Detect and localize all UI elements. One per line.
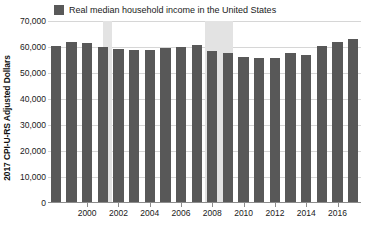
bar — [207, 51, 217, 203]
bar-slot — [158, 48, 174, 203]
y-axis-tick-label: 70,000 — [2, 16, 46, 26]
x-axis-tick-label: 2006 — [172, 208, 191, 218]
bar-slot — [48, 46, 64, 203]
x-axis-tick-mark — [118, 203, 119, 207]
bar-slot — [251, 58, 267, 203]
bar — [270, 58, 280, 203]
bar — [160, 48, 170, 203]
chart-container: Real median household income in the Unit… — [0, 0, 367, 236]
y-axis-tick-label: 50,000 — [2, 68, 46, 78]
y-axis-tick-label: 0 — [2, 198, 46, 208]
y-axis-ticks: 70,00060,00050,00040,00030,00020,00010,0… — [0, 21, 46, 203]
x-axis-tick-mark — [181, 203, 182, 207]
x-axis-tick-label: 2016 — [328, 208, 347, 218]
bar-slot — [95, 47, 111, 203]
legend-label: Real median household income in the Unit… — [69, 5, 276, 15]
x-axis-tick-label: 2008 — [203, 208, 222, 218]
bar — [317, 46, 327, 203]
bar-slot — [64, 42, 80, 203]
y-axis-tick-label: 30,000 — [2, 120, 46, 130]
bar — [238, 57, 248, 203]
bar-slot — [345, 39, 361, 203]
x-axis-tick-mark — [275, 203, 276, 207]
bar-slot — [205, 51, 221, 203]
x-axis-tick-mark — [150, 203, 151, 207]
bar-slot — [298, 55, 314, 203]
legend-swatch-icon — [54, 5, 64, 15]
bar-slot — [236, 57, 252, 203]
chart-legend: Real median household income in the Unit… — [54, 3, 276, 16]
bar — [145, 50, 155, 203]
bar-slot — [173, 47, 189, 203]
plot-area — [48, 21, 361, 203]
y-axis-tick-label: 20,000 — [2, 146, 46, 156]
bar — [176, 47, 186, 203]
x-axis-tick-label: 2004 — [140, 208, 159, 218]
y-axis-tick-label: 10,000 — [2, 172, 46, 182]
bar-slot — [126, 50, 142, 203]
y-axis-tick-label: 60,000 — [2, 42, 46, 52]
x-axis-tick-mark — [338, 203, 339, 207]
x-axis-tick-mark — [212, 203, 213, 207]
x-axis-tick-label: 2012 — [265, 208, 284, 218]
bar-slot — [267, 58, 283, 203]
bar — [348, 39, 358, 203]
bar — [98, 47, 108, 203]
bar — [192, 45, 202, 203]
x-axis-tick-label: 2002 — [109, 208, 128, 218]
bar-slot — [283, 53, 299, 203]
bar — [332, 42, 342, 203]
x-axis-tick-label: 2000 — [78, 208, 97, 218]
bar — [285, 53, 295, 203]
bar-slot — [79, 43, 95, 203]
bar-slot — [111, 49, 127, 203]
bar — [254, 58, 264, 203]
bar — [66, 42, 76, 203]
bar — [129, 50, 139, 203]
x-axis-tick-label: 2010 — [234, 208, 253, 218]
bar — [51, 46, 61, 203]
bar — [301, 55, 311, 203]
x-axis-ticks: 200020022004200620082010201220142016 — [48, 203, 361, 229]
x-axis-tick-mark — [87, 203, 88, 207]
x-axis-tick-label: 2014 — [297, 208, 316, 218]
x-axis-tick-mark — [306, 203, 307, 207]
bar-slot — [330, 42, 346, 203]
bar-slot — [189, 45, 205, 203]
bar — [82, 43, 92, 203]
bar-slot — [220, 53, 236, 203]
bar-series — [48, 21, 361, 203]
bar-slot — [314, 46, 330, 203]
bar — [113, 49, 123, 203]
y-axis-tick-label: 40,000 — [2, 94, 46, 104]
bar — [223, 53, 233, 203]
x-axis-tick-mark — [244, 203, 245, 207]
bar-slot — [142, 50, 158, 203]
